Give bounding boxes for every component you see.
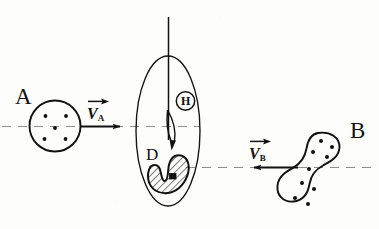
vector-b-subscript: B	[260, 153, 266, 163]
vector-a-subscript: A	[98, 113, 105, 123]
region-d-label: D	[146, 146, 158, 163]
diagram-svg	[0, 0, 379, 229]
figure-canvas: A B D H VA VB	[0, 0, 379, 229]
group-b-label: B	[350, 119, 365, 142]
vector-b-overbar-arrow-icon	[250, 138, 271, 145]
vector-a-label: VA	[87, 105, 104, 123]
vector-a-overbar-arrow-icon	[88, 98, 109, 105]
group-a-label: A	[15, 85, 32, 108]
group-b-shape	[277, 133, 339, 206]
region-h-label: H	[181, 95, 191, 107]
vector-b-label: VB	[249, 145, 266, 163]
vector-a-symbol: V	[87, 105, 98, 122]
vector-b-symbol: V	[249, 145, 260, 162]
